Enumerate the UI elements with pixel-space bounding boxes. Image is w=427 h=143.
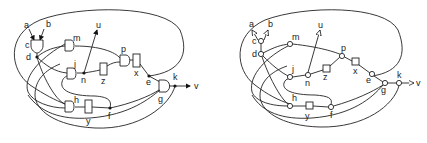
node-c (258, 38, 263, 43)
label-n: n (81, 75, 86, 85)
edge-m-p (293, 44, 342, 55)
node-d (258, 51, 263, 56)
node-h (287, 103, 292, 108)
edge-lower-loop (252, 85, 383, 118)
label-b: b (46, 19, 51, 29)
edge-e-g (374, 76, 383, 82)
node-f (328, 104, 333, 109)
gate-h (65, 101, 74, 112)
wire-lower-loop (28, 90, 160, 118)
label-d: d (26, 52, 31, 62)
register-x (352, 58, 359, 65)
label-u: u (318, 20, 323, 30)
wire-y-f (92, 107, 110, 108)
wire-x-e (140, 64, 149, 76)
label-y: y (86, 116, 91, 126)
register-z (323, 65, 330, 72)
label-h: h (74, 95, 79, 105)
label-c: c (252, 36, 257, 46)
edge-f-g (334, 85, 383, 106)
edge-d-h (262, 57, 288, 104)
node-p (339, 53, 344, 58)
gate-g (159, 80, 170, 92)
label-p: p (121, 44, 126, 54)
label-a: a (249, 19, 254, 29)
edge-n-z (311, 70, 323, 74)
label-j: j (73, 59, 76, 69)
label-k: k (173, 72, 178, 82)
gate-p (120, 55, 130, 66)
label-g: g (158, 94, 163, 104)
label-z: z (323, 72, 328, 82)
label-n: n (305, 78, 310, 88)
edge-p-x (345, 57, 352, 61)
wire-z-p (107, 62, 120, 66)
register-y (306, 102, 313, 109)
edge-b (264, 30, 268, 40)
edge-j-n (293, 75, 306, 77)
label-d: d (252, 49, 257, 59)
label-e: e (146, 77, 151, 87)
label-m: m (292, 32, 300, 42)
label-m: m (73, 33, 81, 43)
label-p: p (341, 43, 346, 53)
edge-x-e (359, 65, 370, 73)
node-n (305, 72, 310, 77)
label-f: f (108, 111, 111, 121)
edge-d-m (263, 44, 290, 53)
label-g: g (381, 85, 386, 95)
gate-j (67, 68, 76, 79)
label-e: e (366, 75, 371, 85)
label-c: c (25, 40, 30, 50)
label-b: b (268, 19, 273, 29)
label-x: x (353, 66, 358, 76)
label-h: h (292, 93, 297, 103)
wire-m-p (75, 46, 120, 58)
circuit-figure: a b c d m u p j n z x e k v g h y f (0, 0, 427, 143)
register-x (133, 54, 140, 67)
left-circuit: a b c d m u p j n z x e k v g h y f (14, 10, 199, 128)
label-u: u (96, 20, 101, 30)
wire-a (29, 29, 34, 40)
edge-u (308, 30, 320, 72)
label-a: a (24, 20, 29, 30)
node-j (287, 74, 292, 79)
register-z (100, 63, 107, 75)
wire-m-h (27, 44, 65, 108)
label-j: j (291, 64, 294, 74)
wire-n-z (84, 70, 100, 73)
wire-b (40, 29, 44, 40)
label-v: v (416, 78, 421, 88)
register-y (85, 100, 92, 113)
right-graph: a b c d m u p j n z x e k v g h y f (240, 10, 421, 127)
label-z: z (101, 76, 106, 86)
edge-y-f (313, 106, 328, 107)
label-y: y (305, 111, 310, 121)
wire-d-h (37, 57, 65, 104)
wire-f-g (110, 90, 159, 108)
gate-c (31, 40, 43, 53)
label-x: x (134, 68, 139, 78)
wire-u (84, 30, 97, 73)
label-k: k (397, 70, 402, 80)
edge-z-p (330, 57, 340, 66)
node-k (396, 80, 401, 85)
label-v: v (194, 81, 199, 91)
node-m (287, 41, 292, 46)
